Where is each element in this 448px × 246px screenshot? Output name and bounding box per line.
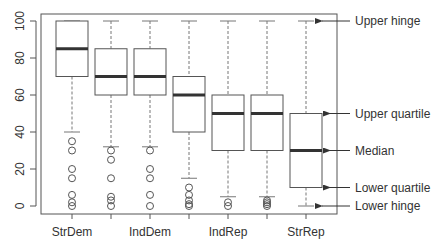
outlier-point bbox=[147, 175, 154, 182]
box-ind bbox=[173, 21, 205, 210]
box-strdem bbox=[56, 21, 88, 210]
outlier-point bbox=[69, 191, 76, 198]
y-tick-label: 100 bbox=[13, 11, 27, 31]
annotation-label: Lower quartile bbox=[355, 181, 431, 195]
annotation-median: Median bbox=[330, 144, 394, 158]
x-tick-label: IndRep bbox=[209, 225, 248, 239]
iqr-box bbox=[173, 77, 205, 133]
x-tick-label: StrDem bbox=[52, 225, 93, 239]
box-inddem bbox=[134, 21, 166, 210]
box-weakrep bbox=[251, 21, 283, 210]
outlier-point bbox=[108, 156, 115, 163]
annotation-label: Median bbox=[355, 144, 394, 158]
iqr-box bbox=[212, 95, 244, 151]
outlier-point bbox=[69, 175, 76, 182]
outlier-point bbox=[108, 175, 115, 182]
box-indrep bbox=[212, 21, 244, 210]
annotations: Upper hingeUpper quartileMedianLower qua… bbox=[322, 14, 431, 213]
boxplot-chart: 020406080100 StrDemIndDemIndRepStrRep Up… bbox=[0, 0, 448, 246]
outlier-point bbox=[69, 166, 76, 173]
x-tick-label: IndDem bbox=[129, 225, 171, 239]
outlier-point bbox=[147, 191, 154, 198]
iqr-box bbox=[251, 95, 283, 151]
outlier-point bbox=[147, 203, 154, 210]
outlier-point bbox=[147, 147, 154, 154]
outlier-point bbox=[69, 147, 76, 154]
annotation-label: Upper quartile bbox=[355, 107, 431, 121]
outlier-point bbox=[147, 166, 154, 173]
y-tick-label: 20 bbox=[13, 162, 27, 176]
annotation-upper-quartile: Upper quartile bbox=[330, 107, 431, 121]
x-axis: StrDemIndDemIndRepStrRep bbox=[52, 214, 325, 239]
annotation-label: Lower hinge bbox=[355, 199, 421, 213]
box-weakdem bbox=[95, 21, 127, 210]
y-tick-label: 40 bbox=[13, 125, 27, 139]
box-series bbox=[56, 21, 322, 210]
y-tick-label: 60 bbox=[13, 88, 27, 102]
x-tick-label: StrRep bbox=[287, 225, 325, 239]
outlier-point bbox=[108, 147, 115, 154]
box-strrep bbox=[290, 21, 322, 206]
iqr-box bbox=[134, 49, 166, 95]
annotation-label: Upper hinge bbox=[355, 14, 421, 28]
y-axis: 020406080100 bbox=[13, 11, 36, 210]
iqr-box bbox=[95, 49, 127, 95]
annotation-lower-quartile: Lower quartile bbox=[330, 181, 431, 195]
outlier-point bbox=[186, 184, 193, 191]
y-tick-label: 0 bbox=[13, 202, 27, 209]
y-tick-label: 80 bbox=[13, 51, 27, 65]
outlier-point bbox=[69, 138, 76, 145]
